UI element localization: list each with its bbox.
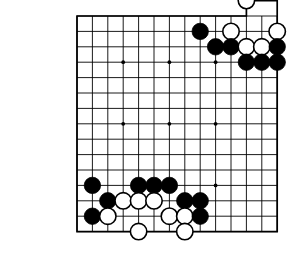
black-stone[interactable] (254, 54, 270, 70)
black-stone[interactable] (177, 193, 193, 209)
white-stone[interactable] (177, 208, 193, 224)
black-stone[interactable] (146, 177, 162, 193)
white-stone[interactable] (130, 193, 146, 209)
black-stone[interactable] (207, 39, 223, 55)
star-point (168, 122, 172, 126)
white-stone[interactable] (100, 208, 116, 224)
star-point (121, 60, 125, 64)
go-board-canvas (0, 0, 303, 256)
white-stone[interactable] (238, 0, 254, 9)
white-stone[interactable] (238, 39, 254, 55)
black-stone[interactable] (100, 193, 116, 209)
white-stone[interactable] (177, 223, 193, 239)
black-stone[interactable] (192, 193, 208, 209)
black-stone[interactable] (223, 39, 239, 55)
black-stone[interactable] (269, 54, 285, 70)
white-stone[interactable] (223, 23, 239, 39)
star-point (214, 122, 218, 126)
black-stone[interactable] (238, 54, 254, 70)
star-point (121, 122, 125, 126)
star-point (214, 60, 218, 64)
white-stone[interactable] (130, 223, 146, 239)
white-stone[interactable] (115, 193, 131, 209)
white-stone[interactable] (146, 193, 162, 209)
white-stone[interactable] (269, 23, 285, 39)
black-stone[interactable] (161, 177, 177, 193)
white-stone[interactable] (161, 208, 177, 224)
black-stone[interactable] (84, 208, 100, 224)
go-board (0, 0, 303, 256)
go-diagram-root (0, 0, 303, 256)
black-stone[interactable] (84, 177, 100, 193)
black-stone[interactable] (269, 39, 285, 55)
black-stone[interactable] (130, 177, 146, 193)
star-point (168, 60, 172, 64)
white-stone[interactable] (254, 39, 270, 55)
star-point (214, 184, 218, 188)
black-stone[interactable] (192, 23, 208, 39)
black-stone[interactable] (192, 208, 208, 224)
